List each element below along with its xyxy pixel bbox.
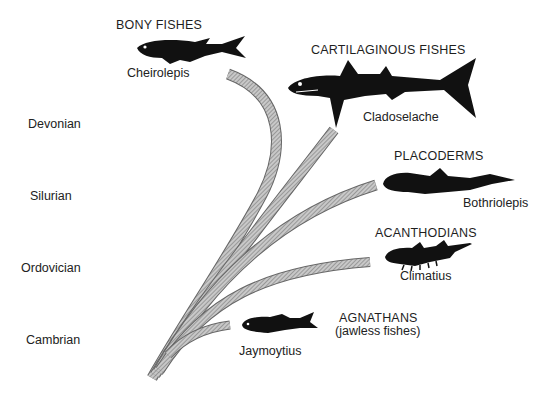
genus-label-bothriolepis: Bothriolepis bbox=[463, 196, 528, 210]
bothriolepis-fish-icon bbox=[383, 168, 515, 194]
period-label-devonian: Devonian bbox=[28, 117, 81, 131]
group-label-agnathans: AGNATHANS bbox=[339, 311, 418, 325]
climatius-fish-icon bbox=[385, 240, 472, 271]
group-label-placoderms: PLACODERMS bbox=[394, 149, 484, 163]
group-label-bony-fishes: BONY FISHES bbox=[116, 18, 202, 32]
period-label-silurian: Silurian bbox=[30, 189, 72, 203]
genus-label-cladoselache: Cladoselache bbox=[363, 110, 439, 124]
genus-label-climatius: Climatius bbox=[400, 269, 451, 283]
period-label-ordovician: Ordovician bbox=[21, 261, 81, 275]
genus-label-cheirolepis: Cheirolepis bbox=[127, 66, 190, 80]
period-label-cambrian: Cambrian bbox=[26, 333, 80, 347]
jaymoytius-fish-icon bbox=[242, 312, 318, 333]
cheirolepis-fish-icon bbox=[137, 36, 246, 64]
genus-label-jaymoytius: Jaymoytius bbox=[239, 344, 302, 358]
group-subtitle-jawless-fishes: (jawless fishes) bbox=[335, 324, 420, 338]
group-label-cartilaginous-fishes: CARTILAGINOUS FISHES bbox=[311, 43, 466, 57]
group-label-acanthodians: ACANTHODIANS bbox=[375, 226, 477, 240]
